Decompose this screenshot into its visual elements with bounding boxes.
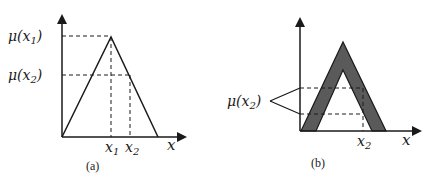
panel-b: μ(x2) x2 x (b) [227,19,420,170]
caption-a: (a) [86,159,99,173]
label-x1: x1 [105,139,119,157]
label-mu-x2-b: μ(x2) [227,93,261,111]
label-x-axis-b: x [402,131,411,149]
label-x-axis-a: x [167,136,176,154]
triangle-mf-a [62,37,158,137]
membership-function-figure: μ(x1) μ(x2) x1 x2 x (a) [0,0,440,183]
caption-b: (b) [311,156,325,170]
label-x2-b: x2 [357,133,371,151]
label-mu-x1: μ(x1) [8,28,42,46]
leader-lower [270,101,300,114]
panel-a: μ(x1) μ(x2) x1 x2 x (a) [8,16,185,173]
leader-upper [270,88,300,101]
figure-svg: μ(x1) μ(x2) x1 x2 x (a) [0,0,440,183]
label-x2: x2 [125,139,139,157]
label-mu-x2: μ(x2) [8,67,42,85]
footprint-of-uncertainty [301,42,386,131]
